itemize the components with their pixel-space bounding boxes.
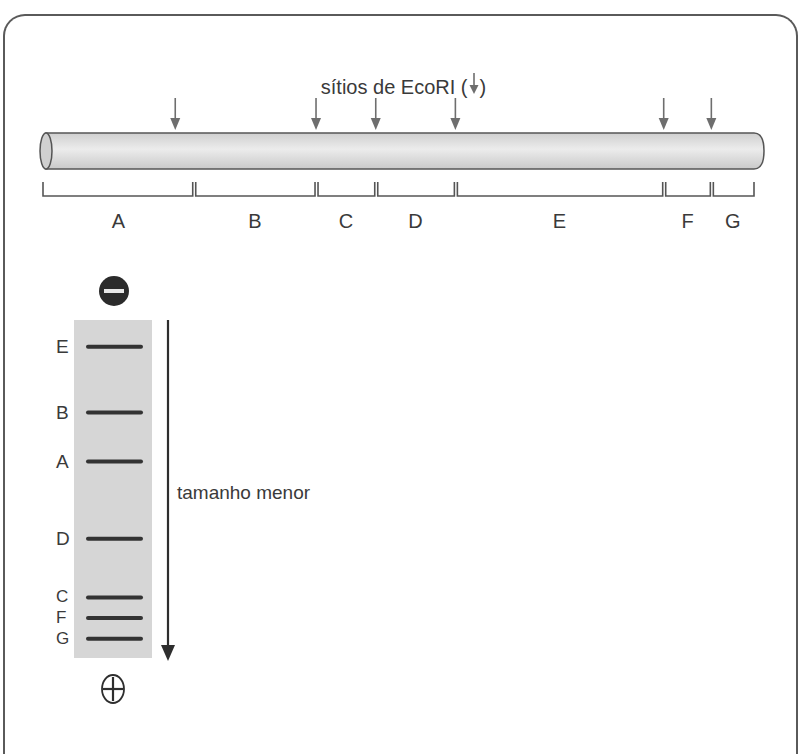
fragment-bracket-d — [378, 182, 455, 196]
fragment-bracket-f — [666, 182, 711, 196]
fragment-label-e: E — [553, 210, 566, 233]
minus-sign — [104, 289, 124, 293]
ecori-site-arrow — [170, 98, 180, 130]
gel-band-label-g: G — [56, 631, 69, 647]
gel-band-label-d: D — [56, 528, 70, 550]
restriction-site-arrows — [170, 98, 716, 130]
ecori-site-arrow — [371, 98, 381, 130]
fragment-label-c: C — [339, 210, 353, 233]
fragment-bracket-g — [713, 182, 754, 196]
ecori-site-arrow — [311, 98, 321, 130]
ecori-site-arrow — [659, 98, 669, 130]
fragment-bracket-a — [43, 182, 193, 196]
ecori-site-arrow — [706, 98, 716, 130]
fragment-brackets — [43, 182, 754, 196]
dna-end-cap — [40, 133, 52, 169]
ecori-site-arrow — [450, 98, 460, 130]
gel-band-label-e: E — [56, 336, 69, 358]
fragment-bracket-b — [196, 182, 315, 196]
fragment-label-a: A — [112, 210, 125, 233]
fragment-bracket-c — [318, 182, 375, 196]
migration-arrow-head — [161, 645, 175, 661]
fragment-label-f: F — [681, 210, 693, 233]
plus-electrode-icon — [102, 675, 124, 703]
gel-band-label-f: F — [56, 610, 66, 626]
fragment-bracket-e — [457, 182, 662, 196]
dna-molecule — [40, 133, 764, 169]
gel-lane — [74, 320, 152, 658]
fragment-label-b: B — [248, 210, 261, 233]
size-axis-label: tamanho menor — [177, 482, 310, 504]
fragment-label-d: D — [408, 210, 422, 233]
gel-band-label-a: A — [56, 451, 69, 473]
gel-band-label-b: B — [56, 402, 69, 424]
fragment-label-g: G — [725, 210, 741, 233]
gel-band-label-c: C — [56, 589, 68, 605]
